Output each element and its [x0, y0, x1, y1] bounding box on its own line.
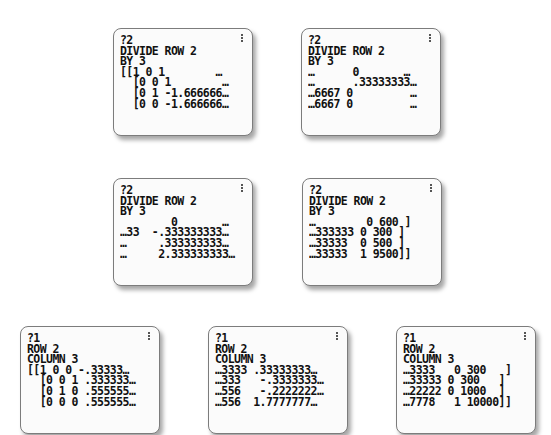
screen-text: ?1 ROW 2 COLUMN 3 …3333 .33333333… …333 …: [215, 333, 341, 407]
calculator-screen-3: ?2 DIVIDE ROW 2 BY 3 0 … …33 -.333333333…: [113, 178, 253, 286]
screen-text: ?2 DIVIDE ROW 2 BY 3 0 … …33 -.333333333…: [120, 185, 246, 259]
calculator-screen-2: ?2 DIVIDE ROW 2 BY 3 … 0 … … .33333333… …: [301, 28, 441, 136]
screen-line: [0 0 -1.666666…: [120, 99, 236, 110]
calculator-screen-1: ?2 DIVIDE ROW 2 BY 3 [[1 0 1 … [0 0 1 … …: [113, 28, 253, 136]
menu-dots-icon[interactable]: [148, 332, 150, 340]
screen-line: …7778 1 10000]]: [403, 397, 519, 408]
menu-dots-icon[interactable]: [241, 184, 243, 192]
menu-dots-icon[interactable]: [241, 34, 243, 42]
screen-line: …6667 0 …: [308, 99, 424, 110]
screen-text: ?1 ROW 2 COLUMN 3 …3333 0 300 ] …33333 0…: [403, 333, 529, 407]
screen-line: … 2.333333333…: [120, 249, 236, 260]
calculator-screen-4: ?2 DIVIDE ROW 2 BY 3 … 0 600 ] …333333 0…: [302, 178, 442, 286]
screen-line: …556 1.7777777…: [215, 397, 331, 408]
clipped-caption-text: [0, 0, 551, 2]
menu-dots-icon[interactable]: [336, 332, 338, 340]
screen-line: [0 0 0 .555555…: [27, 397, 143, 408]
screen-text: ?2 DIVIDE ROW 2 BY 3 … 0 … … .33333333… …: [308, 35, 434, 109]
calculator-screen-5: ?1 ROW 2 COLUMN 3 [[1 0 0 -.33333… [0 0 …: [20, 326, 160, 434]
screen-text: ?2 DIVIDE ROW 2 BY 3 [[1 0 1 … [0 0 1 … …: [120, 35, 246, 109]
screen-text: ?1 ROW 2 COLUMN 3 [[1 0 0 -.33333… [0 0 …: [27, 333, 153, 407]
calculator-screen-7: ?1 ROW 2 COLUMN 3 …3333 0 300 ] …33333 0…: [396, 326, 536, 434]
calculator-screen-6: ?1 ROW 2 COLUMN 3 …3333 .33333333… …333 …: [208, 326, 348, 434]
menu-dots-icon[interactable]: [429, 34, 431, 42]
screen-line: …33333 1 9500]]: [309, 249, 425, 260]
menu-dots-icon[interactable]: [430, 184, 432, 192]
menu-dots-icon[interactable]: [524, 332, 526, 340]
screen-text: ?2 DIVIDE ROW 2 BY 3 … 0 600 ] …333333 0…: [309, 185, 435, 259]
